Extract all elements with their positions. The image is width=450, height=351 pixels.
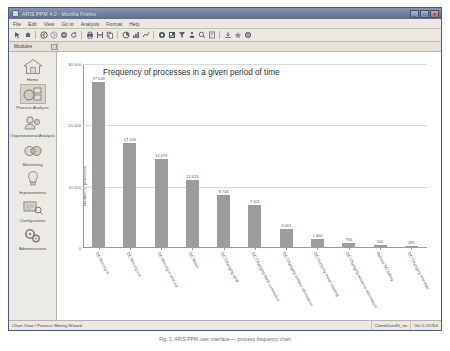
minimize-button[interactable]: _	[410, 10, 419, 18]
sidebar-item-improvements-label: Improvements	[10, 190, 56, 195]
grid-icon[interactable]	[167, 31, 176, 40]
bar-value-label: 14 473	[155, 153, 167, 158]
close-button[interactable]: ×	[430, 10, 439, 18]
list-icon[interactable]	[207, 31, 216, 40]
pie-icon[interactable]	[131, 31, 140, 40]
bar-slot: 7 011OC Changing bank connection	[239, 64, 270, 248]
figure-caption: Fig. 3. ARIS PPM user interface — proces…	[0, 336, 450, 342]
export-icon[interactable]	[223, 31, 232, 40]
sidebar-item-configuration[interactable]: Configuration	[10, 197, 56, 223]
x-axis-category-label: OC Changing advance information	[344, 251, 378, 309]
back-icon[interactable]	[39, 31, 48, 40]
x-axis-category-label: OC Moving in and out	[157, 251, 180, 288]
bar-slot: 14 473OC Moving in and out	[146, 64, 177, 248]
bar-value-label: 3 091	[281, 223, 291, 228]
zoom-icon[interactable]	[197, 31, 206, 40]
sort-icon[interactable]	[187, 31, 196, 40]
menu-item-view[interactable]: View	[44, 21, 55, 27]
x-axis-tick	[255, 248, 256, 250]
bar-slot: 11 073OC Meter	[177, 64, 208, 248]
bar-slot: 3 091OC Changing contact information	[271, 64, 302, 248]
menu-item-goto[interactable]: Go to	[61, 21, 73, 27]
status-bar: Chart View / Process Mining Wizard Clien…	[9, 320, 441, 330]
forward-icon[interactable]	[49, 31, 58, 40]
stop-icon[interactable]	[59, 31, 68, 40]
sidebar-item-monitoring-label: Monitoring	[10, 162, 56, 167]
sidebar-item-administration-label: Administration	[10, 246, 56, 251]
menu-item-format[interactable]: Format	[106, 21, 122, 27]
bar[interactable]: 3 091	[280, 229, 293, 248]
window-body: Home Process Analysis	[9, 52, 441, 320]
sidebar-item-process-analysis[interactable]: Process Analysis	[10, 84, 56, 110]
refresh-icon[interactable]	[69, 31, 78, 40]
x-axis-tick	[161, 248, 162, 250]
save-icon[interactable]	[95, 31, 104, 40]
menu-item-analysis[interactable]: Analysis	[81, 21, 100, 27]
menu-item-edit[interactable]: Edit	[28, 21, 37, 27]
sidebar-item-improvements[interactable]: Improvements	[10, 169, 56, 195]
sidebar-item-home-label: Home	[10, 77, 56, 82]
sidebar-item-administration[interactable]: Administration	[10, 225, 56, 251]
status-left: Chart View / Process Mining Wizard	[9, 321, 372, 330]
x-axis-category-label: OC Changing end date	[407, 251, 431, 290]
toolbar-separator	[35, 31, 36, 39]
bar[interactable]: 17 100	[123, 143, 136, 248]
x-axis-category-label: OC Changing bank connection	[251, 251, 282, 303]
pan-icon[interactable]	[23, 31, 32, 40]
chart-view: Number of processes Frequency of process…	[57, 52, 441, 320]
sidebar-item-home[interactable]: Home	[10, 56, 56, 82]
copy-icon[interactable]	[105, 31, 114, 40]
subheader-filler	[57, 42, 441, 51]
sidebar-item-monitoring[interactable]: Monitoring	[10, 141, 56, 167]
bar-slot: 27 018OC Moving in	[83, 64, 114, 248]
filter-icon[interactable]	[177, 31, 186, 40]
y-axis-tick-label: 0	[79, 246, 81, 251]
bar-value-label: 8 706	[219, 189, 229, 194]
menu-item-file[interactable]: File	[13, 21, 21, 27]
bar[interactable]: 27 018	[92, 82, 105, 248]
bar-icon[interactable]	[141, 31, 150, 40]
x-axis-category-label: Refund OC billing	[376, 251, 395, 282]
bar[interactable]: 1 400	[311, 239, 324, 248]
x-axis-category-label: OC Notifying meter reading	[313, 251, 341, 297]
x-axis-tick	[130, 248, 131, 250]
settings-icon[interactable]	[243, 31, 252, 40]
bar-slot: 17 100OC Moving out	[114, 64, 145, 248]
y-axis-tick-label: 20 000	[68, 123, 81, 128]
monitoring-icon	[20, 141, 46, 161]
screenshot-root: ARIS PPM 4.0 - Mozilla Firefox _ □ × Fil…	[0, 0, 450, 351]
toolbar-separator	[117, 31, 118, 39]
sidebar-item-organizational-analysis-label: Organizational Analysis	[10, 133, 56, 138]
configuration-icon	[20, 197, 46, 217]
x-axis-category-label: OC Changing tariff	[219, 251, 239, 283]
window-titlebar: ARIS PPM 4.0 - Mozilla Firefox _ □ ×	[9, 8, 441, 19]
menu-item-help[interactable]: Help	[129, 21, 139, 27]
chart-icon[interactable]	[121, 31, 130, 40]
maximize-button[interactable]: □	[420, 10, 429, 18]
cursor-icon[interactable]	[13, 31, 22, 40]
x-axis-tick	[349, 248, 350, 250]
modules-panel-label: Modules	[9, 44, 49, 49]
bar-value-label: 500	[377, 239, 384, 244]
table-icon[interactable]	[157, 31, 166, 40]
bar[interactable]: 11 073	[186, 180, 199, 248]
bar[interactable]: 7 011	[248, 205, 261, 248]
x-axis-category-label: OC Changing contact information	[282, 251, 315, 307]
bar-chart: Number of processes Frequency of process…	[57, 52, 441, 320]
modules-sidebar: Home Process Analysis	[9, 52, 57, 320]
bar-value-label: 27 018	[93, 76, 105, 81]
bar[interactable]: 14 473	[155, 159, 168, 248]
x-axis-category-label: OC Moving out	[125, 251, 142, 277]
bar-slot: 281OC Changing end date	[396, 64, 427, 248]
status-user: ClientUser45_en	[372, 321, 412, 330]
plot-area: 27 018OC Moving in17 100OC Moving out14 …	[83, 64, 427, 248]
sidebar-item-organizational-analysis[interactable]: Organizational Analysis	[10, 112, 56, 138]
bar-series: 27 018OC Moving in17 100OC Moving out14 …	[83, 64, 427, 248]
bar[interactable]: 8 706	[217, 195, 230, 248]
x-axis-tick	[380, 248, 381, 250]
favorite-icon[interactable]	[233, 31, 242, 40]
bar-value-label: 11 073	[186, 174, 198, 179]
print-icon[interactable]	[85, 31, 94, 40]
x-axis-tick	[286, 248, 287, 250]
bar-slot: 750OC Changing advance information	[333, 64, 364, 248]
